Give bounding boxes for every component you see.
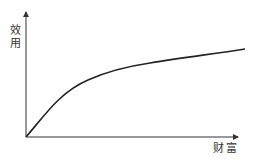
x-axis-label: 财富 — [213, 142, 239, 155]
utility-curve — [26, 49, 245, 137]
y-axis-label: 效用 — [10, 24, 22, 50]
utility-chart — [0, 0, 255, 165]
